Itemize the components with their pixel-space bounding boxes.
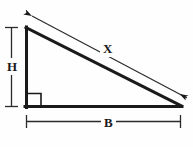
base-label: B bbox=[101, 114, 116, 131]
hypotenuse-label: X bbox=[100, 40, 115, 57]
right-triangle-diagram: H B X bbox=[0, 0, 193, 147]
diagram-canvas bbox=[0, 0, 193, 147]
right-angle-marker-icon bbox=[27, 94, 41, 108]
hypotenuse-dimension-line bbox=[32, 16, 187, 98]
height-label: H bbox=[5, 58, 19, 75]
